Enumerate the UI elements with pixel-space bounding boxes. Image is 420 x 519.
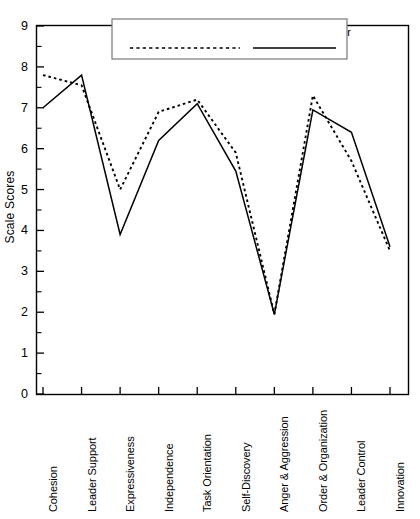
series-line-2 (43, 75, 390, 314)
axis-frame (37, 26, 409, 395)
x-axis-ticks (43, 387, 390, 394)
y-axis-minor-ticks (37, 46, 42, 373)
plot-area (0, 0, 420, 519)
data-series-group (43, 75, 390, 314)
chart-figure: Scale Scores 0123456789 CohesionLeader S… (0, 0, 420, 519)
series-line-1 (43, 75, 390, 314)
legend-box (112, 19, 347, 59)
